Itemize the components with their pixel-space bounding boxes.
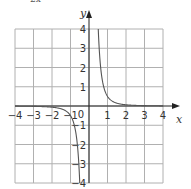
y-axis-label: y xyxy=(79,7,87,20)
origin-label: 0 xyxy=(78,109,84,120)
x-tick-label: 4 xyxy=(160,110,166,121)
y-tick-label: 2 xyxy=(80,63,86,74)
function-graph: xy−4−3−2−112340−4−3−2−11234 xyxy=(0,0,191,189)
x-tick-label: −4 xyxy=(8,110,23,121)
y-tick-label: 4 xyxy=(80,24,86,35)
x-tick-label: 3 xyxy=(141,110,147,121)
x-axis-label: x xyxy=(176,113,183,126)
x-tick-label: −2 xyxy=(45,110,60,121)
x-tick-label: 1 xyxy=(104,110,110,121)
x-tick-label: −3 xyxy=(26,110,41,121)
y-tick-label: 1 xyxy=(80,82,86,93)
x-tick-label: 2 xyxy=(123,110,129,121)
y-tick-label: −2 xyxy=(71,140,86,151)
y-tick-label: 3 xyxy=(80,43,86,54)
y-tick-label: −4 xyxy=(71,178,86,189)
y-axis-arrow-icon xyxy=(86,10,92,18)
x-axis-arrow-icon xyxy=(172,103,180,109)
